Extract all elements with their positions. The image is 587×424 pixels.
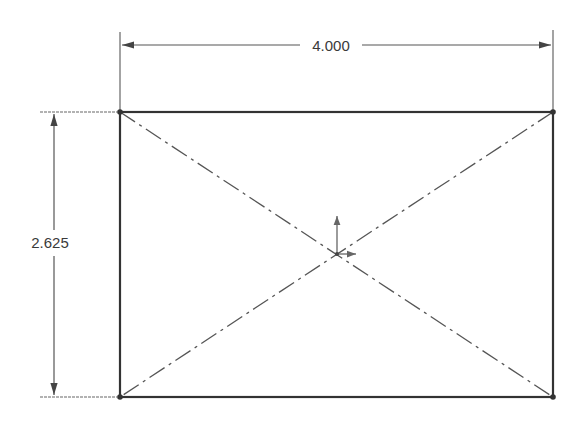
corner-point-top-right[interactable] [550, 109, 556, 115]
width-dimension[interactable]: 4.000 [122, 37, 551, 54]
sketch-canvas[interactable]: 4.000 2.625 [0, 0, 587, 424]
corner-point-bottom-right[interactable] [550, 394, 556, 400]
height-dimension-label[interactable]: 2.625 [31, 234, 69, 251]
origin-axis-icon [335, 216, 356, 256]
width-dimension-label[interactable]: 4.000 [312, 37, 350, 54]
corner-point-top-left[interactable] [117, 109, 123, 115]
corner-point-bottom-left[interactable] [117, 394, 123, 400]
height-dimension[interactable]: 2.625 [31, 114, 69, 395]
